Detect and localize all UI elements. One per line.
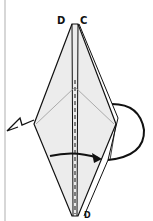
push-arrow-icon [7,118,34,131]
label-d-bottom: D [84,212,91,220]
turn-over-arrow-icon [108,104,144,160]
label-d-top: D [57,16,65,26]
diagram-canvas [0,0,153,221]
label-c-top: C [80,16,87,26]
origami-diagram: D C D [0,0,153,221]
